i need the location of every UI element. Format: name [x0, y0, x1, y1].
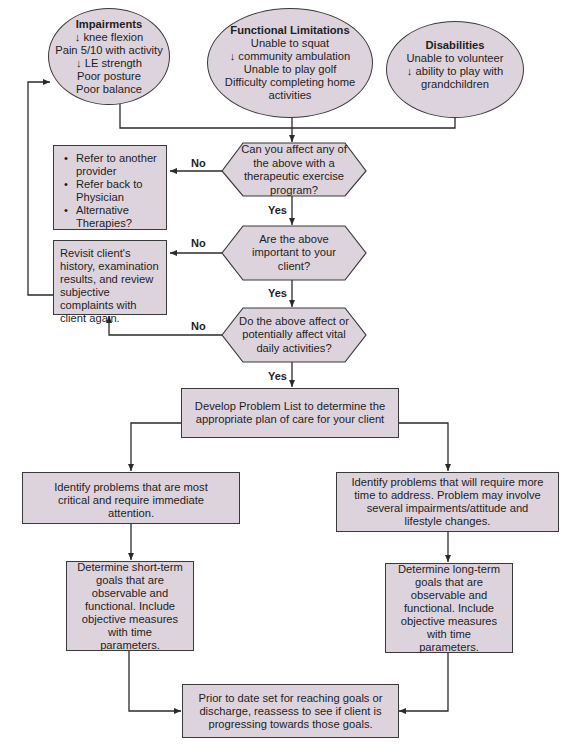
- long-time-problems-box: Identify problems that will require more…: [336, 472, 559, 532]
- referral-item: Refer to another provider: [76, 152, 160, 178]
- decision-3-yes-label: Yes: [268, 370, 287, 382]
- functional-limitations-oval: Functional Limitations Unable to squat ↓…: [207, 8, 373, 118]
- oval-line: ↓ community ambulation: [230, 50, 351, 63]
- disabilities-title: Disabilities: [425, 39, 484, 52]
- oval-line: Pain 5/10 with activity: [55, 44, 163, 57]
- decision-1-no-label: No: [191, 157, 206, 169]
- referral-list: Refer to another provider Refer back to …: [62, 152, 160, 230]
- oval-line: activities: [269, 89, 312, 102]
- decision-2-no-label: No: [191, 237, 206, 249]
- arrow-revisit-loop: [28, 82, 53, 295]
- impairments-oval: Impairments ↓ knee flexion Pain 5/10 wit…: [48, 8, 170, 105]
- oval-line: ↓ knee flexion: [75, 31, 143, 44]
- oval-line: ↓ LE strength: [76, 57, 142, 70]
- long-time-problems-text: Identify problems that will require more…: [347, 476, 548, 528]
- problem-list-text: Develop Problem List to determine the ap…: [190, 400, 390, 426]
- arrow-long-to-reassess: [399, 652, 448, 711]
- problem-list-box: Develop Problem List to determine the ap…: [181, 388, 399, 438]
- decision-1-text: Can you affect any of the above with a t…: [240, 146, 348, 194]
- oval-line: grandchildren: [421, 78, 489, 91]
- disabilities-oval: Disabilities Unable to volunteer ↓ abili…: [386, 21, 524, 118]
- short-term-goals-text: Determine short-term goals that are obse…: [77, 561, 183, 652]
- referral-item: Refer back to Physician: [76, 178, 160, 204]
- critical-problems-box: Identify problems that are most critical…: [22, 472, 240, 524]
- impairments-title: Impairments: [76, 18, 143, 31]
- decision-2-text: Are the above important to your client?: [240, 229, 348, 277]
- oval-line: Poor posture: [77, 70, 141, 83]
- functional-limitations-title: Functional Limitations: [230, 24, 349, 37]
- oval-line: Unable to squat: [251, 37, 329, 50]
- revisit-text: Revisit client's history, examination re…: [60, 247, 162, 325]
- oval-line: Difficulty completing home: [225, 76, 355, 89]
- long-term-goals-box: Determine long-term goals that are obser…: [385, 563, 513, 653]
- decision-1-yes-label: Yes: [268, 204, 287, 216]
- referral-box: Refer to another provider Refer back to …: [53, 145, 167, 230]
- decision-3-no-label: No: [191, 320, 206, 332]
- arrow-short-to-reassess: [129, 650, 181, 711]
- oval-line: ↓ ability to play with: [407, 65, 503, 78]
- referral-item: Alternative Therapies?: [76, 204, 160, 230]
- decision-3-text: Do the above affect or potentially affec…: [238, 311, 350, 359]
- revisit-box: Revisit client's history, examination re…: [53, 240, 167, 315]
- reassess-box: Prior to date set for reaching goals or …: [182, 684, 399, 738]
- decision-2-yes-label: Yes: [268, 287, 287, 299]
- long-term-goals-text: Determine long-term goals that are obser…: [396, 563, 502, 654]
- arrow-to-critical: [131, 423, 181, 471]
- critical-problems-text: Identify problems that are most critical…: [43, 481, 219, 520]
- flowchart-canvas: Impairments ↓ knee flexion Pain 5/10 wit…: [0, 0, 580, 754]
- arrow-to-long-time: [398, 423, 448, 471]
- oval-line: Poor balance: [76, 83, 142, 96]
- reassess-text: Prior to date set for reaching goals or …: [195, 692, 386, 731]
- oval-line: Unable to play golf: [244, 63, 337, 76]
- oval-line: Unable to volunteer: [406, 52, 503, 65]
- short-term-goals-box: Determine short-term goals that are obse…: [66, 561, 194, 651]
